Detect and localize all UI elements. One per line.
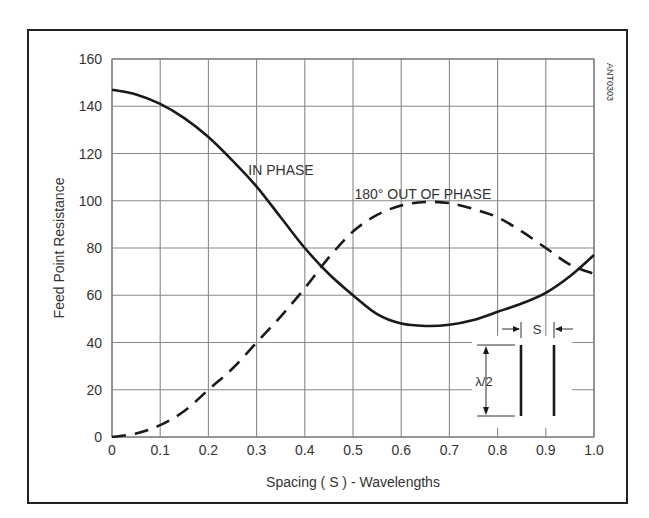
y-tick-label: 160 bbox=[79, 51, 103, 67]
x-axis-label: Spacing ( S ) - Wavelengths bbox=[266, 474, 440, 490]
out-of-phase-label: 180° OUT OF PHASE bbox=[354, 186, 491, 202]
x-tick-label: 0 bbox=[108, 442, 116, 458]
figure-code-label: ANT0303 bbox=[605, 63, 615, 101]
y-tick-label: 140 bbox=[79, 98, 103, 114]
x-tick-label: 0.5 bbox=[343, 442, 363, 458]
in-phase-label: IN PHASE bbox=[248, 162, 313, 178]
x-tick-label: 0.8 bbox=[488, 442, 508, 458]
y-tick-label: 0 bbox=[94, 429, 102, 445]
y-tick-label: 40 bbox=[86, 335, 102, 351]
y-tick-label: 120 bbox=[79, 146, 103, 162]
chart: 020406080100120140160 00.10.20.30.40.50.… bbox=[0, 0, 649, 518]
length-label: λ/2 bbox=[475, 374, 492, 389]
y-tick-label: 100 bbox=[79, 193, 103, 209]
x-tick-label: 0.4 bbox=[295, 442, 315, 458]
arrow-right-icon bbox=[513, 326, 520, 332]
x-tick-label: 0.6 bbox=[391, 442, 411, 458]
x-tick-label: 0.7 bbox=[440, 442, 460, 458]
y-tick-label: 20 bbox=[86, 382, 102, 398]
y-tick-label: 80 bbox=[86, 240, 102, 256]
x-tick-label: 0.3 bbox=[247, 442, 267, 458]
spacing-label: S bbox=[533, 322, 542, 337]
y-tick-labels: 020406080100120140160 bbox=[79, 51, 103, 445]
x-tick-label: 0.1 bbox=[150, 442, 170, 458]
arrow-left-icon bbox=[555, 326, 562, 332]
y-tick-label: 60 bbox=[86, 287, 102, 303]
x-tick-label: 0.9 bbox=[536, 442, 556, 458]
annotations: IN PHASE180° OUT OF PHASE bbox=[248, 162, 491, 202]
dipole-inset: Sλ/2 bbox=[472, 322, 573, 428]
x-tick-labels: 00.10.20.30.40.50.60.70.80.91.0 bbox=[108, 442, 604, 458]
x-tick-label: 1.0 bbox=[584, 442, 604, 458]
x-tick-label: 0.2 bbox=[199, 442, 219, 458]
y-axis-label: Feed Point Resistance bbox=[51, 177, 67, 318]
